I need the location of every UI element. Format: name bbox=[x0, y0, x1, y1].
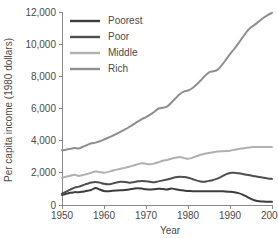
legend-label-rich: Rich bbox=[108, 63, 128, 74]
y-tick-label: 4,000 bbox=[31, 135, 56, 146]
y-axis-title: Per capita income (1980 dollars) bbox=[3, 38, 14, 182]
x-axis: 195019601970198019902000 bbox=[51, 205, 278, 221]
line-chart: 02,0004,0006,0008,00010,00012,000 195019… bbox=[0, 0, 278, 238]
legend-label-poorest: Poorest bbox=[108, 15, 143, 26]
x-tick-label: 1950 bbox=[51, 210, 74, 221]
y-tick-label: 2,000 bbox=[31, 167, 56, 178]
legend-label-poor: Poor bbox=[108, 31, 130, 42]
x-tick-label: 2000 bbox=[261, 210, 278, 221]
x-tick-label: 1960 bbox=[93, 210, 116, 221]
chart-legend: PoorestPoorMiddleRich bbox=[70, 15, 143, 74]
y-tick-label: 6,000 bbox=[31, 103, 56, 114]
x-tick-label: 1970 bbox=[135, 210, 158, 221]
chart-figure: 02,0004,0006,0008,00010,00012,000 195019… bbox=[0, 0, 278, 238]
x-tick-label: 1980 bbox=[177, 210, 200, 221]
x-axis-title: Year bbox=[160, 225, 181, 236]
y-axis: 02,0004,0006,0008,00010,00012,000 bbox=[25, 7, 62, 211]
y-tick-label: 8,000 bbox=[31, 71, 56, 82]
x-tick-label: 1990 bbox=[219, 210, 242, 221]
series-line-poorest bbox=[62, 188, 272, 202]
series-line-rich bbox=[62, 13, 272, 151]
legend-label-middle: Middle bbox=[108, 47, 138, 58]
series-lines bbox=[62, 13, 272, 202]
y-tick-label: 10,000 bbox=[25, 39, 56, 50]
series-line-poor bbox=[62, 173, 272, 194]
y-tick-label: 0 bbox=[50, 200, 56, 211]
y-tick-label: 12,000 bbox=[25, 7, 56, 18]
